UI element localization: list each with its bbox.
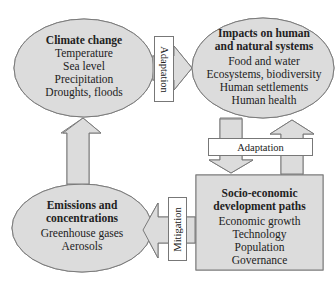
impacts-item: Food and water xyxy=(193,55,335,68)
emissions-title-line2: concentrations xyxy=(22,212,142,225)
mitigation-label-vertical: Mitigation xyxy=(168,197,187,261)
arrow-up-icon xyxy=(61,118,101,185)
socio-economic-item: Economic growth xyxy=(196,215,323,228)
climate-change-item: Sea level xyxy=(24,60,144,73)
socio-economic-title-line2: development paths xyxy=(196,200,323,213)
climate-change-node: Climate change Temperature Sea level Pre… xyxy=(24,34,144,99)
impacts-item: Human health xyxy=(193,94,335,107)
emissions-item: Greenhouse gases xyxy=(22,227,142,240)
emissions-title-line1: Emissions and xyxy=(22,199,142,212)
socio-economic-node: Socio-economic development paths Economi… xyxy=(196,187,323,267)
climate-change-title: Climate change xyxy=(24,34,144,47)
adaptation-label-text: Adaptation xyxy=(237,142,284,153)
socio-economic-item: Governance xyxy=(196,254,323,267)
impacts-item: Human settlements xyxy=(193,81,335,94)
climate-change-item: Precipitation xyxy=(24,73,144,86)
socio-economic-item: Technology xyxy=(196,228,323,241)
emissions-node: Emissions and concentrations Greenhouse … xyxy=(22,199,142,253)
adaptation-label-horizontal: Adaptation xyxy=(208,138,313,156)
adaptation-label-text: Adaptation xyxy=(159,46,170,93)
climate-change-item: Temperature xyxy=(24,47,144,60)
socio-economic-title-line1: Socio-economic xyxy=(196,187,323,200)
mitigation-label-text: Mitigation xyxy=(172,207,183,251)
impacts-title-line2: and natural systems xyxy=(193,40,335,53)
climate-change-item: Droughts, floods xyxy=(24,86,144,99)
impacts-node: Impacts on human and natural systems Foo… xyxy=(193,27,335,107)
impacts-title-line1: Impacts on human xyxy=(193,27,335,40)
socio-economic-item: Population xyxy=(196,241,323,254)
emissions-item: Aerosols xyxy=(22,240,142,253)
adaptation-label-vertical: Adaptation xyxy=(154,36,174,102)
impacts-item: Ecosystems, biodiversity xyxy=(193,68,335,81)
